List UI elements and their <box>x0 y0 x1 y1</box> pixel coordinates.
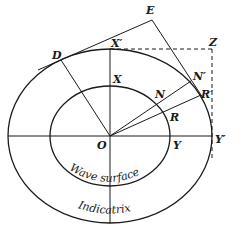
caption-wave-surface: Wave surface <box>68 161 142 185</box>
caption-indicatrix: Indicatrix <box>76 198 133 216</box>
tangent-line-d-e <box>38 20 152 70</box>
label-o: O <box>97 139 107 152</box>
line-o-nprime <box>110 81 191 136</box>
label-x-prime: X′ <box>110 37 123 50</box>
label-y: Y <box>173 139 182 152</box>
label-z: Z <box>208 36 218 49</box>
label-n: N <box>154 88 166 101</box>
line-o-rprime <box>110 95 201 136</box>
line-e-rprime <box>152 20 203 98</box>
optics-diagram: E D X′ Z X N′ N R′ R O Y Y′ Wave surface… <box>0 0 239 227</box>
label-r-prime: R′ <box>200 88 213 101</box>
label-d: D <box>51 49 62 62</box>
label-y-prime: Y′ <box>215 133 226 146</box>
label-n-prime: N′ <box>192 70 206 83</box>
label-r: R <box>169 111 179 124</box>
label-x: X <box>112 73 122 86</box>
line-o-d <box>61 60 110 136</box>
diagram-canvas: E D X′ Z X N′ N R′ R O Y Y′ Wave surface… <box>0 0 239 227</box>
label-e: E <box>145 4 155 17</box>
